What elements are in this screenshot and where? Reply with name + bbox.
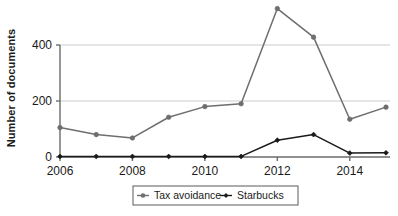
data-point-marker: [58, 125, 63, 130]
data-point-marker: [130, 154, 135, 159]
data-point-marker: [347, 117, 352, 122]
data-point-marker: [94, 132, 99, 137]
data-point-marker: [239, 154, 244, 159]
legend-label-tax-avoidance[interactable]: Tax avoidance: [154, 189, 221, 201]
series-group: [58, 6, 389, 159]
data-point-marker: [94, 154, 99, 159]
x-tick-label: 2014: [336, 164, 363, 178]
line-chart-svg: 0200400 20062008201020122014 Tax avoidan…: [0, 0, 398, 216]
data-point-marker: [239, 102, 244, 107]
gridlines-group: [60, 45, 390, 101]
data-point-marker: [202, 154, 207, 159]
y-tick-group: 0200400: [32, 38, 60, 164]
legend-marker-tax-avoidance[interactable]: [141, 193, 146, 198]
data-point-marker: [275, 138, 280, 143]
x-tick-label: 2012: [264, 164, 291, 178]
legend-label-starbucks[interactable]: Starbucks: [237, 189, 284, 201]
y-tick-label: 0: [45, 150, 52, 164]
x-tick-label: 2008: [119, 164, 146, 178]
series-line: [60, 9, 386, 138]
data-point-marker: [58, 154, 63, 159]
data-point-marker: [311, 35, 316, 40]
chart-container: Number of documents 0200400 200620082010…: [0, 0, 398, 216]
x-tick-group: 20062008201020122014: [47, 157, 364, 178]
data-point-marker: [166, 154, 171, 159]
data-point-marker: [166, 115, 171, 120]
x-tick-label: 2006: [47, 164, 74, 178]
data-point-marker: [130, 136, 135, 141]
x-tick-label: 2010: [192, 164, 219, 178]
data-point-marker: [384, 105, 389, 110]
y-tick-label: 400: [32, 38, 52, 52]
y-tick-label: 200: [32, 94, 52, 108]
data-point-marker: [275, 6, 280, 11]
legend-group[interactable]: Tax avoidanceStarbucks: [133, 186, 298, 205]
series-line: [60, 135, 386, 157]
data-point-marker: [384, 150, 389, 155]
data-point-marker: [203, 104, 208, 109]
